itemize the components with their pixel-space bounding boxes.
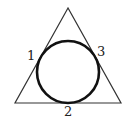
- label-3: 3: [97, 44, 105, 59]
- label-1: 1: [27, 48, 35, 63]
- label-2: 2: [64, 104, 72, 119]
- incircle: [37, 41, 99, 103]
- triangle-incircle-diagram: 1 2 3: [0, 0, 130, 120]
